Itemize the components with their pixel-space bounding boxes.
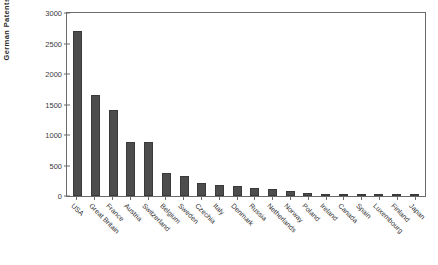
y-axis-tick-label: 0: [22, 192, 67, 201]
bar-slot: [370, 13, 388, 196]
y-axis-tick-label: 500: [22, 161, 67, 170]
bar-slot: [335, 13, 353, 196]
x-axis-label-slot: USA: [68, 200, 86, 262]
x-axis-labels: USAGreat BritainFranceAustriaSwitzerland…: [66, 200, 426, 262]
bar: [321, 194, 330, 196]
bar: [392, 194, 401, 196]
bar-slot: [122, 13, 140, 196]
bar: [109, 110, 118, 196]
bar: [268, 189, 277, 196]
y-axis-tick-label: 2000: [22, 70, 67, 79]
bar-slot: [228, 13, 246, 196]
bar: [215, 185, 224, 196]
x-axis-label-slot: Spain: [353, 200, 371, 262]
y-axis-tick-label: 1500: [22, 100, 67, 109]
x-axis-label-slot: Canada: [335, 200, 353, 262]
bar-slot: [405, 13, 423, 196]
bar: [410, 194, 419, 196]
bar-slot: [211, 13, 229, 196]
bar-slot: [388, 13, 406, 196]
x-axis-label-slot: France: [104, 200, 122, 262]
bar-slot: [246, 13, 264, 196]
x-axis-label-slot: Belgium: [157, 200, 175, 262]
y-axis-tick-label: 1000: [22, 131, 67, 140]
bars-layer: [67, 13, 425, 196]
plot-area: 300025002000150010005000: [66, 12, 426, 197]
x-axis-label-slot: Netherlands: [264, 200, 282, 262]
x-axis-category-label: Japan: [408, 202, 426, 220]
x-axis-label-slot: Luxembourg: [371, 200, 389, 262]
bar-slot: [175, 13, 193, 196]
bar-slot: [281, 13, 299, 196]
bar: [197, 183, 206, 196]
bar: [91, 95, 100, 196]
bar-slot: [158, 13, 176, 196]
bar-slot: [87, 13, 105, 196]
x-axis-label-slot: Switzerland: [139, 200, 157, 262]
bar: [250, 188, 259, 196]
bar-slot: [69, 13, 87, 196]
x-axis-label-slot: Russia: [246, 200, 264, 262]
bar-slot: [104, 13, 122, 196]
bar-slot: [299, 13, 317, 196]
bar: [73, 31, 82, 196]
x-axis-label-slot: Sweden: [175, 200, 193, 262]
bar: [286, 191, 295, 196]
bar: [374, 194, 383, 196]
bar: [162, 173, 171, 196]
y-axis-tick-label: 3000: [22, 9, 67, 18]
bar-slot: [193, 13, 211, 196]
x-axis-label-slot: Finland: [388, 200, 406, 262]
x-axis-category-label: USA: [70, 202, 85, 217]
x-axis-label-slot: Norway: [282, 200, 300, 262]
x-axis-category-label: Italy: [212, 202, 226, 216]
bar: [233, 186, 242, 196]
bar: [126, 142, 135, 196]
bar: [144, 142, 153, 196]
bar-chart-figure: German Patents 300025002000150010005000 …: [0, 0, 438, 265]
x-axis-label-slot: Ireland: [317, 200, 335, 262]
x-axis-label-slot: Austria: [121, 200, 139, 262]
bar: [180, 176, 189, 196]
bar: [339, 194, 348, 196]
x-axis-label-slot: Czechia: [193, 200, 211, 262]
x-axis-label-slot: Poland: [299, 200, 317, 262]
x-axis-label-slot: Japan: [406, 200, 424, 262]
bar-slot: [352, 13, 370, 196]
bar-slot: [317, 13, 335, 196]
y-axis-tick-label: 2500: [22, 39, 67, 48]
bar-slot: [140, 13, 158, 196]
x-axis-label-slot: Great Britain: [86, 200, 104, 262]
bar: [357, 194, 366, 196]
y-axis-title: German Patents: [0, 0, 14, 84]
bar-slot: [264, 13, 282, 196]
x-axis-label-slot: Italy: [210, 200, 228, 262]
bar: [303, 193, 312, 196]
x-axis-label-slot: Denmark: [228, 200, 246, 262]
